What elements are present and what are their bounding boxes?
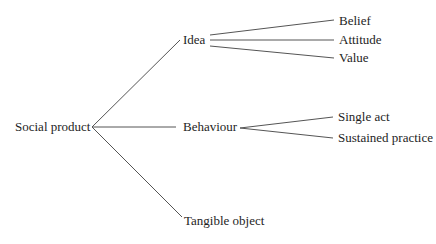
connector-root-tangible (92, 127, 182, 217)
connector-idea-belief (210, 20, 334, 35)
node-attitude: Attitude (339, 33, 382, 47)
node-behaviour: Behaviour (183, 120, 237, 134)
root-node-social-product: Social product (15, 120, 90, 134)
node-idea: Idea (183, 33, 205, 47)
connector-behaviour-sustained (240, 128, 333, 138)
node-tangible-object: Tangible object (184, 214, 264, 228)
node-sustained-practice: Sustained practice (338, 131, 433, 145)
connector-root-idea (92, 40, 180, 127)
social-product-diagram: Social product Idea Belief Attitude Valu… (0, 0, 436, 244)
connector-behaviour-single (240, 117, 333, 128)
node-value: Value (339, 51, 369, 65)
node-single-act: Single act (338, 110, 390, 124)
connector-idea-value (210, 46, 334, 58)
node-belief: Belief (339, 14, 371, 28)
